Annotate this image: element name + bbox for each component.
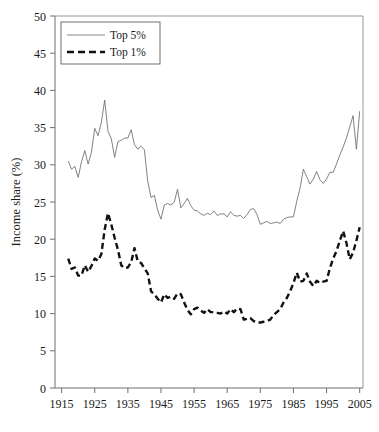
y-tick-label: 20 bbox=[34, 233, 46, 247]
plot-background bbox=[55, 16, 363, 388]
x-tick-label: 1915 bbox=[50, 397, 74, 411]
y-tick-label: 5 bbox=[40, 344, 46, 358]
x-tick-label: 1995 bbox=[315, 397, 339, 411]
y-tick-label: 10 bbox=[34, 307, 46, 321]
legend-label-top-1: Top 1% bbox=[110, 46, 146, 59]
y-tick-label: 45 bbox=[34, 47, 46, 61]
y-axis-title: Income share (%) bbox=[9, 158, 23, 247]
x-tick-label: 1985 bbox=[281, 397, 305, 411]
legend-label-top-5: Top 5% bbox=[110, 29, 146, 42]
x-tick-label: 1965 bbox=[215, 397, 239, 411]
x-tick-label: 1925 bbox=[83, 397, 107, 411]
y-tick-label: 15 bbox=[34, 270, 46, 284]
y-tick-label: 0 bbox=[40, 382, 46, 396]
y-tick-label: 30 bbox=[34, 158, 46, 172]
y-tick-label: 40 bbox=[34, 84, 46, 98]
y-tick-label: 25 bbox=[34, 196, 46, 210]
y-tick-label: 35 bbox=[34, 121, 46, 135]
x-tick-label: 1955 bbox=[182, 397, 206, 411]
y-axis-ticks: 05101520253035404550 bbox=[34, 10, 55, 396]
x-tick-label: 1945 bbox=[149, 397, 173, 411]
x-tick-label: 2005 bbox=[348, 397, 372, 411]
income-share-line-chart: 05101520253035404550 1915192519351945195… bbox=[0, 0, 379, 432]
x-tick-label: 1935 bbox=[116, 397, 140, 411]
chart-container: 05101520253035404550 1915192519351945195… bbox=[0, 0, 379, 432]
x-axis-ticks: 1915192519351945195519651975198519952005 bbox=[50, 388, 372, 411]
y-tick-label: 50 bbox=[34, 10, 46, 24]
chart-legend: Top 5% Top 1% bbox=[61, 22, 160, 64]
x-tick-label: 1975 bbox=[248, 397, 272, 411]
